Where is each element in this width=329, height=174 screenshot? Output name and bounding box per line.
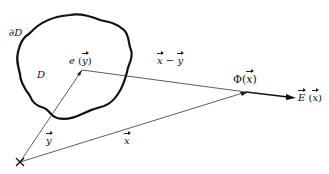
- unit-vector-label: e (y): [69, 56, 92, 66]
- potential-symbol: Φ: [233, 73, 242, 86]
- vector-x-line: [20, 92, 246, 162]
- boundary-label: ∂D: [9, 28, 22, 38]
- difference-right: y: [177, 56, 183, 66]
- vector-x-label: x: [124, 136, 130, 146]
- field-arg: x: [312, 93, 318, 103]
- vector-y-label: y: [46, 136, 52, 146]
- domain-label: D: [37, 70, 45, 80]
- diagram-canvas: [0, 0, 329, 174]
- field-symbol: E: [298, 93, 305, 103]
- domain-boundary: [17, 14, 132, 118]
- field-label: E (x): [298, 93, 322, 103]
- difference-vector-label: x − y: [157, 56, 183, 66]
- difference-left: x: [157, 56, 163, 66]
- potential-arg: x: [246, 74, 252, 85]
- field-vector-arrowhead: [286, 94, 296, 100]
- vector-difference-line: [82, 70, 246, 92]
- field-vector-line: [246, 92, 288, 97]
- unit-vector-arg: y: [82, 56, 88, 66]
- difference-op: −: [163, 55, 178, 66]
- potential-label: Φ(x): [233, 74, 257, 85]
- unit-vector-symbol: e: [69, 55, 75, 66]
- vector-y-arrowhead: [77, 70, 82, 76]
- vector-y-line: [20, 70, 82, 162]
